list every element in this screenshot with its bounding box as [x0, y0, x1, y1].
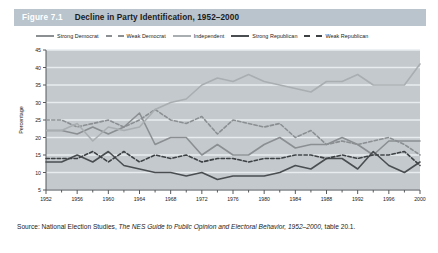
- source-italic: The NES Guide to Public Opinion and Elec…: [119, 223, 323, 230]
- figure-title-bar: Figure 7.1 Decline in Party Identificati…: [14, 9, 426, 26]
- x-axis-tick-label: 1960: [103, 196, 115, 202]
- chart-legend: Strong DemocratWeak DemocratIndependentS…: [36, 30, 426, 41]
- y-axis-tick-label: 30: [35, 100, 41, 106]
- figure-number: Figure 7.1: [22, 13, 63, 22]
- x-axis-tick-label: 1964: [134, 196, 146, 202]
- legend-label: Independent: [194, 33, 225, 39]
- legend-label: Strong Democrat: [57, 33, 99, 39]
- legend-label: Weak Republican: [325, 33, 368, 39]
- legend-swatch-icon: [106, 35, 124, 37]
- x-axis-tick-label: 1952: [40, 196, 52, 202]
- legend-entry-weak-republican[interactable]: Weak Republican: [304, 33, 368, 39]
- y-axis-tick-label: 20: [35, 135, 41, 141]
- y-axis-title: Percentage: [18, 106, 24, 134]
- legend-swatch-icon: [231, 35, 249, 37]
- source-line2: table 20.1.: [325, 223, 356, 230]
- y-axis-tick-label: 25: [35, 117, 41, 123]
- page-title: Decline in Party Identification, 1952–20…: [75, 13, 239, 22]
- legend-label: Strong Republican: [252, 33, 297, 39]
- legend-label: Weak Democrat: [127, 33, 166, 39]
- x-axis-tick-label: 1972: [196, 196, 208, 202]
- legend-entry-independent[interactable]: Independent: [173, 33, 225, 39]
- legend-entry-strong-democrat[interactable]: Strong Democrat: [36, 33, 99, 39]
- x-axis-tick-label: 1996: [383, 196, 395, 202]
- y-axis-tick-label: 45: [35, 47, 41, 53]
- legend-swatch-icon: [36, 35, 54, 37]
- x-axis-tick-label: 1976: [227, 196, 239, 202]
- x-axis-tick-label: 1956: [71, 196, 83, 202]
- y-axis-tick-label: 10: [35, 170, 41, 176]
- x-axis-tick-label: 2000: [414, 196, 426, 202]
- legend-swatch-icon: [304, 35, 322, 37]
- x-axis-tick-label: 1984: [290, 196, 302, 202]
- x-axis-tick-label: 1992: [352, 196, 364, 202]
- x-axis-tick-label: 1980: [258, 196, 270, 202]
- figure-container: Figure 7.1 Decline in Party Identificati…: [0, 0, 438, 253]
- legend-entry-strong-republican[interactable]: Strong Republican: [231, 33, 297, 39]
- line-chart-svg: 51015202530354045Percentage1952195619601…: [14, 44, 426, 212]
- chart-plot-area: 51015202530354045Percentage1952195619601…: [14, 44, 426, 212]
- y-axis-tick-label: 5: [38, 187, 41, 193]
- source-text: National Election Studies,: [42, 223, 117, 230]
- legend-entry-weak-democrat[interactable]: Weak Democrat: [106, 33, 166, 39]
- source-prefix: Source:: [17, 223, 40, 230]
- x-axis-tick-label: 1988: [321, 196, 333, 202]
- source-note: Source: National Election Studies, The N…: [17, 222, 421, 232]
- legend-swatch-icon: [173, 35, 191, 37]
- y-axis-tick-label: 35: [35, 82, 41, 88]
- x-axis-tick-label: 1968: [165, 196, 177, 202]
- y-axis-tick-label: 15: [35, 152, 41, 158]
- y-axis-tick-label: 40: [35, 65, 41, 71]
